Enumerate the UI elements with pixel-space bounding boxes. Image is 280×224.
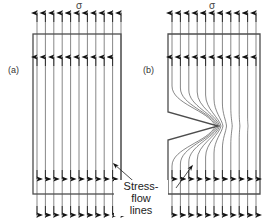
panel-a-arrows-outer-top <box>37 13 121 22</box>
panel-b-arrows-outer-bottom <box>172 206 256 215</box>
panel-a-specimen-outline <box>33 34 121 194</box>
panel-b-group <box>168 10 260 218</box>
panel-label-b: (b) <box>143 65 154 75</box>
stress-flow-figure: σ σ (a) (b) Stress-flow lines <box>0 0 280 224</box>
leader-line-panel-b <box>176 166 192 188</box>
panel-b-arrows-inner-bottom <box>172 170 256 179</box>
annotation-line-2: lines <box>130 204 153 216</box>
stress-flow-lines-annotation: Stress-flow lines <box>114 180 168 216</box>
panel-b-arrows-inner-top <box>172 57 256 66</box>
stress-symbol-panel-a: σ <box>76 0 82 11</box>
panel-a-arrows-inner-top <box>37 57 113 66</box>
panel-a-arrows-inner-bottom <box>37 170 113 179</box>
panel-label-a: (a) <box>8 65 19 75</box>
panel-b-flow-lines <box>172 10 256 218</box>
panel-a-arrows-outer-bottom <box>37 206 121 215</box>
panel-b-arrows-outer-top <box>172 13 256 22</box>
panel-a-flow-lines <box>37 10 121 218</box>
stress-symbol-panel-b: σ <box>209 0 215 11</box>
annotation-line-1: Stress-flow <box>124 180 159 204</box>
